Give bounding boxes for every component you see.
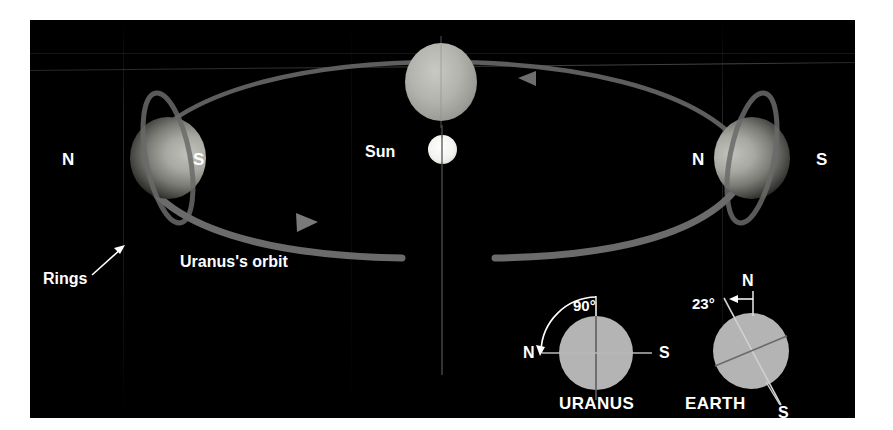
uranus-tilt-arrowhead — [536, 345, 545, 356]
illustration-panel: N S N S Sun Rings Uranus's orbit — [30, 20, 855, 418]
earth-inset-south-label: S — [778, 405, 789, 418]
tilt-inset-svg — [30, 20, 855, 418]
earth-tilt-arrowhead — [729, 295, 738, 303]
uranus-inset-north-label: N — [523, 345, 535, 361]
uranus-inset-south-label: S — [659, 345, 670, 361]
earth-inset-name: EARTH — [685, 395, 746, 412]
uranus-tilt-value: 90° — [573, 298, 596, 313]
earth-inset-north-label: N — [742, 273, 754, 289]
earth-south-leader — [766, 382, 780, 405]
earth-tilt-value: 23° — [692, 296, 715, 311]
figure-root: N S N S Sun Rings Uranus's orbit — [0, 0, 893, 430]
uranus-inset-name: URANUS — [559, 395, 634, 412]
earth-equator-line — [715, 336, 787, 366]
